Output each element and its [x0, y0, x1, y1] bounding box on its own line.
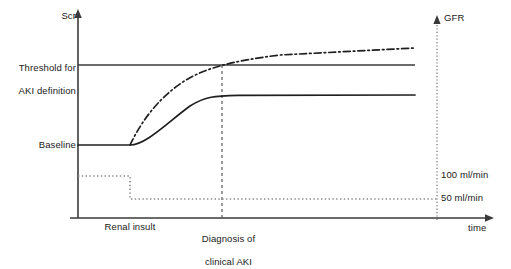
aki-threshold-label: Threshold for AKI definition — [2, 50, 76, 108]
aki-threshold-label-line2: AKI definition — [19, 85, 76, 96]
scr-solid-curve — [78, 95, 415, 145]
diagnosis-label-line2: clinical AKI — [205, 256, 252, 267]
gfr-axis-title: GFR — [444, 12, 484, 24]
gfr-axis-arrowhead — [433, 15, 440, 24]
renal-insult-label: Renal insult — [84, 221, 176, 233]
diagnosis-label-line1: Diagnosis of — [202, 233, 255, 244]
baseline-label: Baseline — [12, 139, 76, 151]
time-axis-title: time — [468, 222, 506, 234]
scr-dashdot-curve — [130, 48, 415, 145]
aki-threshold-label-line1: Threshold for — [19, 62, 76, 73]
scr-axis-title: Scr — [38, 10, 76, 22]
axis-group — [70, 9, 494, 222]
diagnosis-label: Diagnosis of clinical AKI — [176, 221, 270, 269]
gfr-50-value-label: 50 ml/min — [441, 192, 503, 204]
time-axis-arrowhead — [485, 214, 494, 222]
gfr-100-value-label: 100 ml/min — [441, 169, 507, 181]
gfr-step-curve — [78, 176, 437, 199]
